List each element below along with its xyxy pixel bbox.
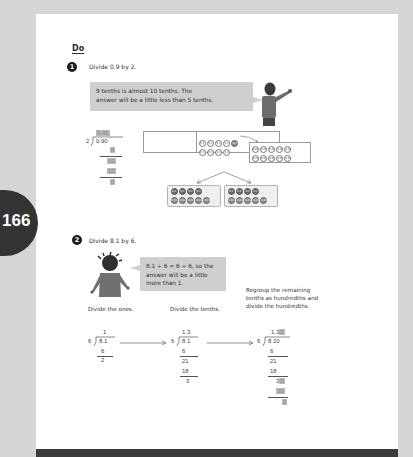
hundredths-row: 0.010.010.010.010.01 [251,153,309,162]
quotient: 0.45 [96,130,110,136]
subtraction-rule [268,356,288,357]
work-step: 2 [101,357,104,363]
work-step: 0 [110,179,115,185]
hundredth-counter: 0.01 [284,155,291,162]
hundredth-counter: 0.01 [260,155,267,162]
subtraction-rule [100,177,122,178]
work-step: 18 [270,368,277,374]
question-prompt: Divide 0.9 by 2. [89,63,136,70]
work-step: 21 [270,358,277,364]
group-hundredths-row: 0.010.010.010.010.01 [170,196,218,205]
work-step: 0 [282,399,287,405]
tenth-counter: 0.1 [252,188,259,195]
divisor: 6 [88,338,91,344]
hundredths-box: 0.010.010.010.010.01 0.010.010.010.010.0… [249,142,311,163]
work-step: 30 [276,388,285,394]
work-step: 30 [276,378,285,384]
work-step: 6 [270,348,273,354]
tenth-counter: 0.1 [223,149,230,156]
hundredth-counter: 0.01 [179,197,186,204]
question-number-badge: 2 [72,235,82,245]
chart-divider [196,131,197,153]
hundredth-counter: 0.01 [268,155,275,162]
split-arrows-icon [195,170,255,186]
step-caption: Regroup the remaining tenths as hundredt… [246,286,318,310]
hundredth-counter: 0.01 [260,146,267,153]
hundredth-counter: 0.01 [284,146,291,153]
work-step: 10 [107,158,116,164]
page-number: 166 [2,211,42,231]
subtraction-rule [268,397,288,398]
subtraction-rule [180,376,198,377]
hundredth-counter: 0.01 [252,197,259,204]
tenth-counter: 0.1 [199,149,206,156]
quotient: 1.3 [182,329,190,335]
work-step: 18 [182,368,189,374]
subtraction-rule [268,376,288,377]
right-arrow-icon [207,340,255,346]
divisor: 6 [171,338,174,344]
boy-character-illustration [258,80,302,126]
dividend: 0.90 [96,138,108,144]
group-hundredths-row: 0.010.010.010.010.01 [227,196,275,205]
page-bottom-bar [36,449,398,457]
speech-line: 8.1 ÷ 6 ≈ 6 ÷ 6, so the [146,262,220,271]
speech-bubble: 9 tenths is almost 10 tenths. The answer… [90,82,253,111]
speech-line: 9 tenths is almost 10 tenths. The [96,87,247,96]
divisor: 2 [86,138,89,144]
group-tenths-row: 0.10.10.10.1 [170,187,218,196]
tenth-counter: 0.1 [195,188,202,195]
work-step: 21 [182,358,189,364]
tenth-counter: 0.1 [187,188,194,195]
hundredth-counter: 0.01 [260,197,267,204]
hundredths-row: 0.010.010.010.010.01 [251,144,309,153]
dividend: 8.1 [99,338,107,344]
tenth-counter-regrouped: 0.1 [231,140,238,147]
question-prompt: Divide 8.1 by 6. [89,237,136,244]
tenth-counter: 0.1 [171,188,178,195]
textbook-page [36,14,398,450]
step-caption: Divide the ones. [88,305,134,313]
work-step: 3 [186,378,189,384]
right-arrow-icon [120,340,168,346]
tenth-counter: 0.1 [215,149,222,156]
work-step: 6 [182,348,185,354]
caption-line: tenths as hundredths and [246,294,318,302]
hundredth-counter: 0.01 [228,197,235,204]
hundredth-counter: 0.01 [236,197,243,204]
dividend: 8.10 [268,338,280,344]
section-heading: Do [72,44,84,53]
hundredth-counter: 0.01 [187,197,194,204]
hundredth-counter: 0.01 [276,146,283,153]
dividend: 8.1 [182,338,190,344]
subtraction-rule [97,356,113,357]
step-caption: Divide the tenths. [170,305,220,313]
speech-line: answer will be a little less than 5 tent… [96,96,247,105]
speech-bubble: 8.1 ÷ 6 ≈ 6 ÷ 6, so the answer will be a… [140,257,226,291]
split-group: 0.10.10.10.1 0.010.010.010.010.01 [167,185,221,207]
hundredth-counter: 0.01 [276,155,283,162]
subtraction-rule [180,356,198,357]
speech-line: more than 1. [146,279,220,288]
hundredth-counter: 0.01 [252,155,259,162]
tenths-row: 0.10.10.10.1 [198,142,231,161]
question-number-badge: 1 [67,62,77,72]
quotient: 1.35 [271,329,285,335]
subtraction-rule [100,156,122,157]
caption-line: Regroup the remaining [246,286,318,294]
tenth-counter: 0.1 [228,188,235,195]
hundredth-counter: 0.01 [268,146,275,153]
divisor: 6 [257,338,260,344]
work-step: 6 [101,348,104,354]
hundredth-counter: 0.01 [252,146,259,153]
tenth-counter: 0.1 [236,188,243,195]
child-character-illustration [88,253,136,299]
group-tenths-row: 0.10.10.10.1 [227,187,275,196]
hundredth-counter: 0.01 [195,197,202,204]
tenth-counter: 0.1 [179,188,186,195]
hundredth-counter: 0.01 [171,197,178,204]
caption-line: divide the hundredths. [246,302,318,310]
split-group: 0.10.10.10.1 0.010.010.010.010.01 [224,185,278,207]
hundredth-counter: 0.01 [244,197,251,204]
tenth-counter: 0.1 [244,188,251,195]
